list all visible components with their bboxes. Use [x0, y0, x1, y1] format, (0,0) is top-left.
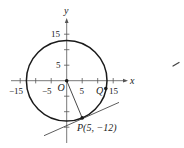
x-tick-label-15: 15: [109, 86, 119, 96]
x-axis-arrow-icon: [123, 79, 128, 83]
y-axis-label: y: [63, 5, 69, 16]
point-q: [104, 87, 108, 91]
circle-tangent-diagram: x −15 −5 5 15 y 15 5 O Q P(5, −12): [0, 0, 184, 148]
point-origin: [65, 79, 69, 83]
y-axis: y 15 5: [51, 5, 69, 143]
y-axis-arrow-icon: [65, 18, 69, 23]
x-tick-label-neg5: −5: [42, 86, 52, 96]
y-tick-label-15: 15: [51, 29, 61, 39]
point-q-label: Q: [96, 85, 104, 96]
x-axis-label: x: [129, 75, 135, 86]
x-tick-label-5: 5: [80, 86, 85, 96]
point-p-label: P(5, −12): [76, 122, 117, 134]
x-tick-label-neg15: −15: [9, 86, 24, 96]
stray-mark: [173, 63, 179, 67]
origin-label: O: [58, 82, 65, 93]
y-tick-label-5: 5: [56, 60, 61, 70]
point-p: [80, 116, 84, 120]
